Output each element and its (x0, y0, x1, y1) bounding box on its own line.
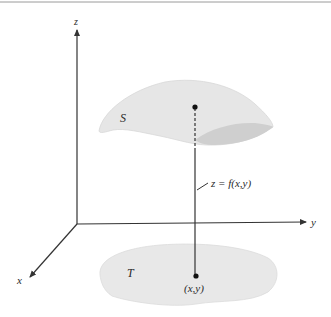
region-point (193, 273, 198, 278)
y-axis-label: y (310, 216, 316, 228)
x-axis (30, 224, 77, 277)
y-axis (77, 222, 306, 224)
surface-over-region-diagram: z y x S T z = f(x,y) (x,y) (0, 0, 331, 317)
point-label: (x,y) (184, 282, 204, 295)
surface-label: S (120, 111, 126, 125)
surface-point (192, 104, 197, 109)
x-axis-label: x (16, 274, 22, 286)
z-axis-label: z (73, 16, 78, 27)
function-label: z = f(x,y) (210, 177, 251, 190)
function-leader-line (197, 183, 208, 190)
